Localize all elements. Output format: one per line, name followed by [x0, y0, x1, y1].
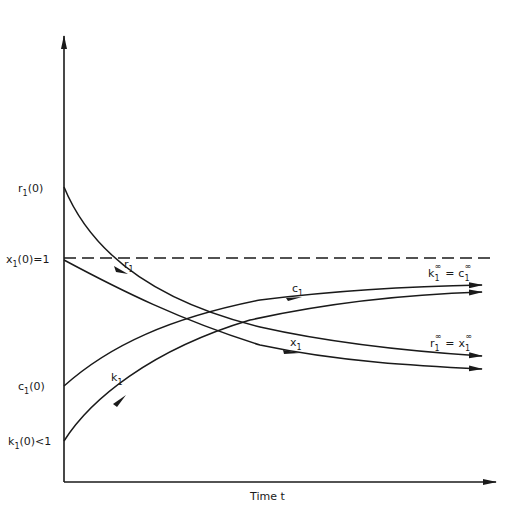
- phase-diagram: r1(0) x1(0)=1 c1(0) k1(0)<1 r1 c1 x1 k1 …: [0, 0, 512, 530]
- limit-label-r-x: r1∞=x1∞: [430, 332, 472, 353]
- curve-r1: [64, 187, 482, 356]
- curve-c1: [64, 285, 482, 386]
- y-label-k1-0: k1(0)<1: [8, 435, 51, 451]
- y-label-x1-0: x1(0)=1: [6, 253, 49, 269]
- curve-k1: [64, 292, 482, 441]
- x-axis-label: Time t: [249, 490, 285, 503]
- curve-label-k1: k1: [111, 371, 122, 387]
- arrow-marker-k1: [113, 395, 126, 407]
- y-label-c1-0: c1(0): [18, 380, 45, 396]
- y-label-r1-0: r1(0): [18, 182, 43, 198]
- curve-label-r1: r1: [124, 258, 134, 274]
- curve-label-x1: x1: [290, 336, 302, 352]
- limit-label-k-c: k1∞=c1∞: [428, 262, 471, 283]
